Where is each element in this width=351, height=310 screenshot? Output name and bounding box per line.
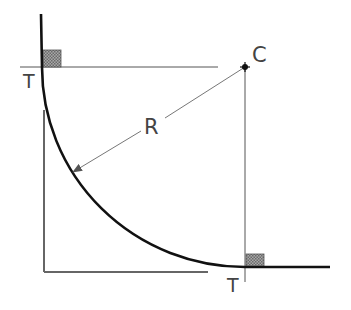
center-point-icon xyxy=(240,62,250,72)
tangent-curve xyxy=(41,14,330,267)
label-tangent-end: T xyxy=(226,274,239,296)
radius-arrow xyxy=(165,67,245,118)
radius-arrow-lower xyxy=(73,131,141,172)
label-tangent-start: T xyxy=(22,70,35,92)
right-angle-marker-top xyxy=(43,50,61,67)
right-angle-marker-bottom xyxy=(246,254,264,267)
curve-tangent-radius-diagram: T T R C xyxy=(0,0,351,310)
label-radius: R xyxy=(144,115,159,139)
label-center: C xyxy=(252,43,267,67)
